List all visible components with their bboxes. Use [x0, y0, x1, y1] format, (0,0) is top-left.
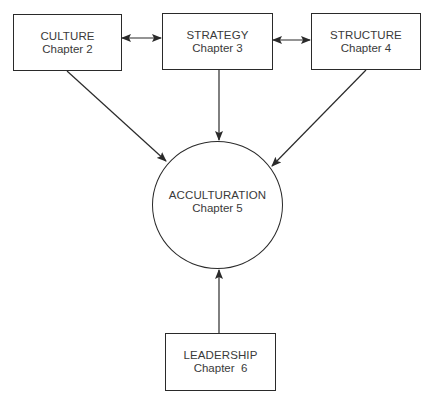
- node-structure-subtitle: Chapter 4: [341, 42, 392, 55]
- edge-culture-acculturation: [67, 71, 166, 161]
- node-acculturation: ACCULTURATION Chapter 5: [152, 141, 283, 269]
- node-acculturation-subtitle: Chapter 5: [192, 202, 243, 215]
- node-leadership: LEADERSHIP Chapter 6: [165, 333, 276, 391]
- node-strategy-title: STRATEGY: [187, 29, 249, 42]
- edge-structure-acculturation: [272, 70, 366, 166]
- node-culture-title: CULTURE: [40, 30, 94, 43]
- node-structure-title: STRUCTURE: [330, 29, 402, 42]
- node-strategy: STRATEGY Chapter 3: [162, 13, 273, 70]
- node-acculturation-title: ACCULTURATION: [169, 189, 266, 202]
- node-culture-subtitle: Chapter 2: [42, 43, 93, 56]
- node-structure: STRUCTURE Chapter 4: [311, 13, 421, 70]
- node-strategy-subtitle: Chapter 3: [192, 42, 243, 55]
- node-leadership-title: LEADERSHIP: [184, 349, 258, 362]
- node-culture: CULTURE Chapter 2: [13, 14, 122, 71]
- node-leadership-subtitle: Chapter 6: [194, 362, 248, 375]
